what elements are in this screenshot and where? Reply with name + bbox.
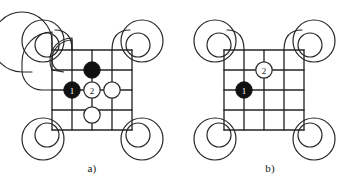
loop-br-inner [126,123,150,147]
loop-bl-inner [207,123,231,147]
panel-b: 1 2 b) [177,0,353,187]
white-stone-2[interactable] [84,82,100,98]
board-diagram-a: 1 2 [0,0,176,187]
loop-tr-inner [298,33,322,57]
loop-bl-inner [35,123,59,147]
loop-tr-inner [126,33,150,57]
white-stone-below[interactable] [84,107,100,123]
black-stone-1[interactable] [236,82,252,98]
panel-a: 1 2 a) [0,0,176,187]
panel-a-caption: a) [4,162,180,174]
loop-tl-inner [207,33,231,57]
black-stone-plain[interactable] [84,62,100,78]
figure-root: 1 2 a) [0,0,353,187]
white-stone-right[interactable] [104,82,120,98]
board-diagram-b: 1 2 [177,0,353,187]
white-stone-2[interactable] [256,62,272,78]
stones-b: 1 2 [236,62,272,98]
black-stone-1[interactable] [64,82,80,98]
panel-b-caption: b) [182,162,353,174]
panel-b-board [194,20,335,160]
loop-br-inner [298,123,322,147]
